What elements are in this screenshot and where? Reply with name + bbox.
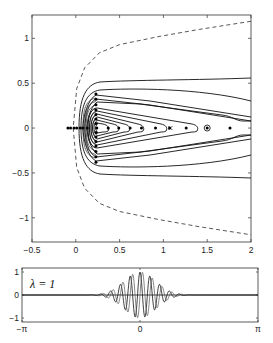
eigenvalue-dot xyxy=(95,127,98,130)
eigenvalue-dot xyxy=(94,113,97,116)
eigenvalue-dot xyxy=(228,127,231,130)
eigenvalue-dot xyxy=(69,127,72,130)
eigenvalue-dot xyxy=(86,127,89,130)
figure: −0.500.511.5210.50−0.5−1 −π0π10−1 λ = 1 xyxy=(0,0,273,343)
eigenvalue-dot xyxy=(94,136,97,139)
eigenvalue-dot xyxy=(81,127,84,130)
eigenvalue-dot xyxy=(94,118,97,121)
x-tick-label: 0 xyxy=(73,245,78,255)
eigenvalue-dot xyxy=(94,161,97,164)
eigenvalue-dot xyxy=(94,122,97,125)
eigenvalue-dot xyxy=(185,127,188,130)
eigenvalue-dot xyxy=(94,109,97,112)
x-tick-label: 1 xyxy=(161,245,166,255)
eigenvalue-dot xyxy=(154,127,157,130)
contour-lines xyxy=(79,78,251,178)
eigenvalue-dot xyxy=(94,103,97,106)
eigenvalue-dot xyxy=(75,127,78,130)
eigenvalue-dot xyxy=(94,155,97,158)
eigenvalue-dot xyxy=(94,92,97,95)
eigenvalue-dot xyxy=(66,127,69,130)
y-tick-label: 0.5 xyxy=(17,78,29,88)
x-tick-label: 2 xyxy=(249,245,254,255)
bottom-y-tick-label: 0 xyxy=(14,290,19,300)
y-tick-label: 1 xyxy=(24,33,29,43)
bottom-y-tick-label: −1 xyxy=(9,313,19,323)
eigenvalue-dot xyxy=(94,131,97,134)
eigenvalue-dot xyxy=(94,140,97,143)
wave-packet-curve-alt xyxy=(22,272,258,317)
eigenvalue-dot xyxy=(94,150,97,153)
x-tick-label: 0.5 xyxy=(114,245,126,255)
y-tick-label: 0 xyxy=(24,123,29,133)
eigenvalue-dot xyxy=(94,98,97,101)
dashed-boundary-curve xyxy=(73,21,251,235)
x-tick-label: 1.5 xyxy=(201,245,213,255)
eigenvalue-dot xyxy=(206,127,209,130)
bottom-x-tick-label: −π xyxy=(17,324,28,334)
y-tick-label: −1 xyxy=(19,213,29,223)
eigenvalue-dot xyxy=(94,144,97,147)
eigenvalue-dot xyxy=(140,127,143,130)
x-tick-label: −0.5 xyxy=(24,245,41,255)
lambda-label: λ = 1 xyxy=(29,277,55,291)
y-tick-label: −0.5 xyxy=(12,168,29,178)
bottom-x-tick-label: 0 xyxy=(138,324,143,334)
eigenvalue-dot xyxy=(129,127,132,130)
eigenvalue-dot xyxy=(79,127,82,130)
eigenvalue-dot xyxy=(107,127,110,130)
bottom-y-tick-label: 1 xyxy=(14,267,19,277)
eigenvalue-dot xyxy=(117,127,120,130)
eigenvalue-dot xyxy=(73,127,76,130)
bottom-x-tick-label: π xyxy=(255,324,261,334)
